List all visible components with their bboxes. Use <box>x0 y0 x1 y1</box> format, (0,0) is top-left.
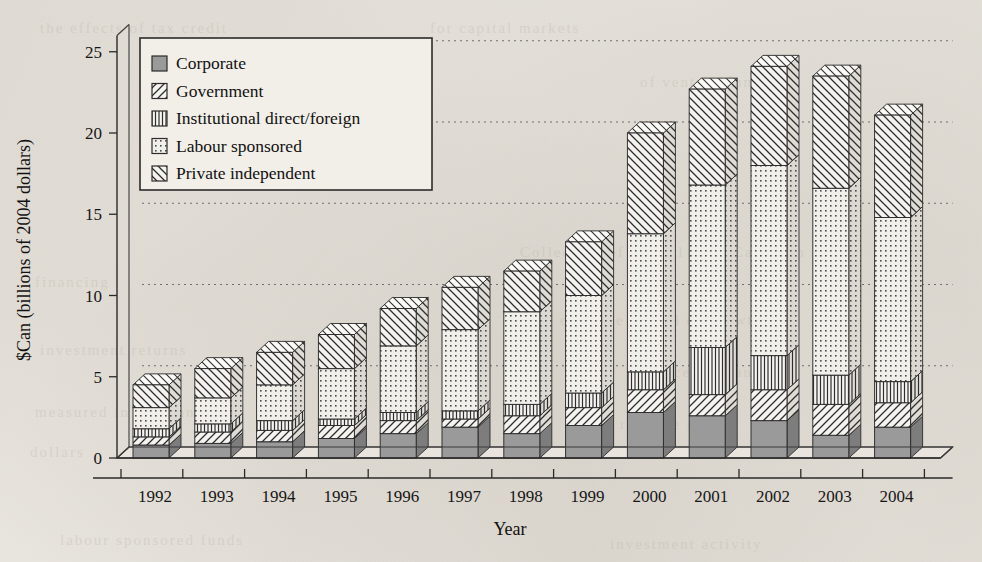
bar-group-1996[interactable] <box>380 298 428 459</box>
bar-segment <box>689 174 737 348</box>
bar-group-1998[interactable] <box>504 260 552 458</box>
segment-front-face <box>813 404 849 435</box>
legend-swatch-solid-gray-swatch <box>152 56 167 71</box>
segment-front-face <box>504 271 540 312</box>
bar-group-1999[interactable] <box>566 231 614 458</box>
chart-legend[interactable]: CorporateGovernmentInstitutional direct/… <box>140 38 432 190</box>
segment-front-face <box>195 398 231 424</box>
bar-group-1995[interactable] <box>318 324 366 459</box>
segment-front-face <box>813 76 849 188</box>
segment-front-face <box>566 296 602 394</box>
chart-canvas: 0510152025 19921993199419951996199719981… <box>0 0 982 562</box>
bar-segment <box>133 374 181 408</box>
x-tick-label-2003: 2003 <box>818 487 852 506</box>
segment-front-face <box>627 390 663 413</box>
bar-group-2001[interactable] <box>689 78 737 458</box>
segment-front-face <box>133 385 169 408</box>
segment-front-face <box>813 375 849 404</box>
segment-front-face <box>875 403 911 427</box>
bar-group-2000[interactable] <box>627 122 675 458</box>
segment-front-face <box>689 395 725 416</box>
segment-front-face <box>689 185 725 348</box>
bar-segment <box>875 207 923 382</box>
segment-front-face <box>566 393 602 408</box>
segment-side-face <box>540 301 552 405</box>
legend-label: Institutional direct/foreign <box>176 108 360 128</box>
bar-segment <box>380 335 428 413</box>
bar-group-1993[interactable] <box>195 358 243 458</box>
x-tick-label-2002: 2002 <box>756 487 790 506</box>
segment-front-face <box>566 426 602 459</box>
segment-front-face <box>195 443 231 458</box>
bar-group-1992[interactable] <box>133 374 181 458</box>
bar-segment <box>751 155 799 356</box>
stacked-bar-chart: 0510152025 19921993199419951996199719981… <box>0 0 982 562</box>
segment-front-face <box>195 369 231 398</box>
bar-segment <box>504 301 552 405</box>
bar-segment <box>504 260 552 312</box>
segment-front-face <box>318 419 354 426</box>
segment-side-face <box>911 207 923 382</box>
bar-segment <box>442 319 490 411</box>
legend-label: Government <box>176 81 264 101</box>
segment-front-face <box>689 416 725 458</box>
segment-front-face <box>195 424 231 432</box>
bar-segment <box>442 276 490 329</box>
segment-front-face <box>318 335 354 369</box>
x-tick-label-2000: 2000 <box>632 487 666 506</box>
legend-item-corporate[interactable]: Corporate <box>152 53 246 73</box>
segment-front-face <box>318 439 354 459</box>
legend-item-institutional-direct-foreign[interactable]: Institutional direct/foreign <box>152 108 360 128</box>
segment-front-face <box>442 330 478 411</box>
y-tick-label: 10 <box>85 287 102 306</box>
segment-front-face <box>627 234 663 372</box>
y-tick-label: 25 <box>85 43 102 62</box>
segment-front-face <box>504 434 540 458</box>
legend-swatch-diagonal-forward-swatch <box>152 84 167 99</box>
segment-front-face <box>380 309 416 346</box>
bar-group-2002[interactable] <box>751 55 799 458</box>
bar-group-2003[interactable] <box>813 65 861 458</box>
segment-front-face <box>504 312 540 405</box>
bar-segment <box>195 358 243 398</box>
x-tick-label-1992: 1992 <box>138 487 172 506</box>
segment-side-face <box>663 122 675 234</box>
segment-side-face <box>849 177 861 375</box>
bar-segment <box>380 298 428 346</box>
segment-front-face <box>504 404 540 415</box>
segment-front-face <box>751 356 787 390</box>
x-tick-label-1999: 1999 <box>571 487 605 506</box>
bar-group-1994[interactable] <box>257 341 305 458</box>
bar-segment <box>257 341 305 385</box>
segment-front-face <box>751 421 787 458</box>
segment-front-face <box>318 369 354 419</box>
segment-front-face <box>751 166 787 356</box>
segment-front-face <box>813 188 849 375</box>
bar-segment <box>318 324 366 369</box>
bar-segment <box>875 104 923 217</box>
legend-item-private-independent[interactable]: Private independent <box>152 163 316 183</box>
bar-group-2004[interactable] <box>875 104 923 458</box>
segment-front-face <box>318 426 354 439</box>
x-tick-label-2004: 2004 <box>880 487 915 506</box>
bar-segment <box>813 65 861 188</box>
segment-front-face <box>133 437 169 445</box>
segment-front-face <box>689 89 725 185</box>
legend-swatch-diagonal-back-swatch <box>152 166 167 181</box>
segment-front-face <box>875 427 911 458</box>
y-axis-title: $Can (billions of 2004 dollars) <box>14 139 35 361</box>
segment-front-face <box>380 421 416 434</box>
segment-side-face <box>787 55 799 165</box>
segment-side-face <box>911 104 923 217</box>
segment-front-face <box>133 408 169 429</box>
segment-side-face <box>602 285 614 394</box>
segment-side-face <box>849 65 861 188</box>
y-axis-tick-labels: 0510152025 <box>85 43 102 468</box>
segment-front-face <box>442 411 478 419</box>
segment-front-face <box>751 390 787 421</box>
segment-side-face <box>725 78 737 185</box>
segment-front-face <box>442 427 478 458</box>
legend-swatch-dot-grid-swatch <box>152 139 167 154</box>
bar-group-1997[interactable] <box>442 276 490 458</box>
y-tick-label: 20 <box>85 124 102 143</box>
